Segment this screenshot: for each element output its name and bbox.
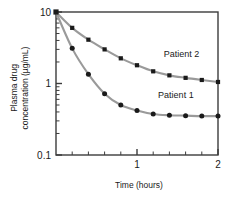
data-point-marker	[167, 113, 172, 118]
y-tick-label: 0.1	[37, 150, 51, 161]
data-point-marker	[70, 26, 74, 30]
x-tick-label: 1	[134, 159, 140, 170]
series-label-patient-1: Patient 1	[158, 90, 194, 100]
origin-data-point-marker	[53, 9, 58, 14]
data-point-marker	[135, 63, 139, 67]
data-point-marker	[151, 69, 155, 73]
data-point-marker	[135, 108, 140, 113]
data-point-marker	[200, 78, 204, 82]
y-axis-title-line1: Plasma drug	[9, 64, 19, 112]
data-point-marker	[216, 80, 220, 84]
data-point-marker	[118, 103, 123, 108]
plasma-drug-concentration-chart: 1010.1 12 Patient 2Patient 1 Time (hours…	[0, 0, 233, 197]
chart-background	[0, 0, 233, 197]
data-point-marker	[184, 76, 188, 80]
data-point-marker	[151, 111, 156, 116]
data-point-marker	[119, 56, 123, 60]
data-point-marker	[103, 47, 107, 51]
x-tick-label: 2	[215, 159, 221, 170]
data-point-marker	[167, 73, 171, 77]
data-point-marker	[102, 91, 107, 96]
y-axis-title-line2: concentration (µg/mL)	[20, 46, 30, 129]
chart-canvas: 1010.1 12 Patient 2Patient 1 Time (hours…	[0, 0, 233, 197]
data-point-marker	[70, 46, 75, 51]
data-point-marker	[216, 114, 221, 119]
series-label-patient-2: Patient 2	[164, 49, 200, 59]
y-tick-label: 10	[40, 7, 52, 18]
data-point-marker	[183, 113, 188, 118]
data-point-marker	[86, 38, 90, 42]
data-point-marker	[199, 114, 204, 119]
y-tick-label: 1	[45, 78, 51, 89]
data-point-marker	[86, 72, 91, 77]
x-axis-title: Time (hours)	[115, 180, 163, 190]
